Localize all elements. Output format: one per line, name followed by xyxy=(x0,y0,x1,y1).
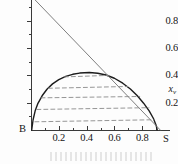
y-axis-title: xv xyxy=(168,83,176,96)
x-minor-tick-1 xyxy=(73,128,74,131)
y-axis-title-subscript: v xyxy=(173,88,176,96)
y-tick-label-0: 0.2 xyxy=(152,98,178,108)
x-tick-label-1: 0.4 xyxy=(74,133,100,143)
chart-figure: 0.20.40.60.80.20.40.60.8 xv B S xyxy=(0,0,178,164)
x-tick-label-2: 0.6 xyxy=(101,133,127,143)
y-minor-tick-0 xyxy=(29,116,32,117)
series-tie-line-4 xyxy=(48,86,127,88)
x-minor-tick-0 xyxy=(45,128,46,131)
x-minor-tick-2 xyxy=(101,128,102,131)
point-label-b: B xyxy=(19,123,26,134)
y-tick-label-3: 0.8 xyxy=(152,16,178,26)
y-minor-tick-1 xyxy=(29,89,32,90)
y-tick-label-2: 0.6 xyxy=(152,43,178,53)
y-major-tick-1 xyxy=(27,75,32,76)
y-tick-label-1: 0.4 xyxy=(152,70,178,80)
x-minor-tick-4 xyxy=(156,128,157,131)
y-major-tick-0 xyxy=(27,103,32,104)
x-major-tick-3 xyxy=(142,126,143,131)
series-tie-line-3 xyxy=(41,96,140,97)
series-binodal-dome xyxy=(32,73,158,130)
point-label-s: S xyxy=(163,133,169,144)
y-minor-tick-2 xyxy=(29,62,32,63)
series-tie-line-2 xyxy=(37,108,149,110)
y-major-tick-2 xyxy=(27,48,32,49)
y-major-tick-3 xyxy=(27,21,32,22)
x-tick-label-0: 0.2 xyxy=(46,133,72,143)
x-tick-label-3: 0.8 xyxy=(129,133,155,143)
x-major-tick-0 xyxy=(59,126,60,131)
y-minor-tick-4 xyxy=(29,7,32,8)
y-minor-tick-3 xyxy=(29,34,32,35)
series-tangent-line xyxy=(35,0,160,130)
series-tie-line-1 xyxy=(35,120,154,122)
series-tie-line-5 xyxy=(64,75,108,77)
x-minor-tick-3 xyxy=(128,128,129,131)
cropped-caption-remnant xyxy=(50,152,155,161)
x-major-tick-1 xyxy=(87,126,88,131)
x-major-tick-2 xyxy=(114,126,115,131)
